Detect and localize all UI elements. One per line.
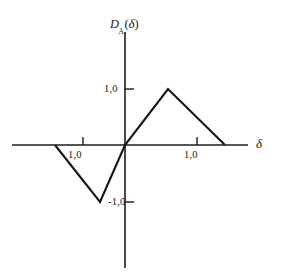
y-axis-title: DA(δ) bbox=[110, 18, 139, 33]
chart-canvas bbox=[0, 0, 287, 280]
y-axis-title-subscript: A bbox=[119, 27, 124, 36]
y-axis-title-main: D bbox=[110, 17, 119, 31]
x-axis-title: δ bbox=[256, 137, 262, 150]
y-tick-label-positive: 1,0 bbox=[104, 84, 118, 95]
chart-figure: DA(δ) δ 1,0 -1,0 1,0 1,0 bbox=[0, 0, 287, 280]
x-tick-label-left: 1,0 bbox=[68, 150, 82, 161]
x-tick-label-right: 1,0 bbox=[184, 150, 198, 161]
y-axis-title-close-paren: ) bbox=[134, 17, 138, 31]
y-tick-label-negative: -1,0 bbox=[108, 197, 125, 208]
